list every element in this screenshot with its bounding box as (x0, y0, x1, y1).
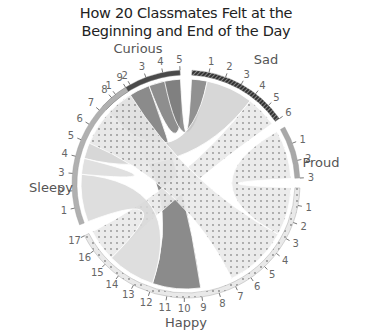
tick-mark (162, 68, 163, 72)
tick-label: 3 (308, 172, 314, 183)
tick-label: 4 (259, 80, 265, 91)
tick-mark (276, 253, 279, 255)
group-label-happy: Happy (165, 315, 207, 330)
tick-label: 4 (157, 56, 163, 67)
tick-label: 8 (101, 84, 107, 95)
tick-mark (251, 278, 253, 281)
tick-label: 6 (254, 281, 260, 292)
tick-mark (128, 81, 130, 84)
tick-mark (279, 116, 282, 118)
tick-mark (265, 267, 268, 270)
tick-mark (256, 91, 258, 94)
tick-label: 16 (78, 252, 91, 263)
tick-mark (113, 91, 115, 94)
tick-label: 11 (159, 302, 172, 313)
tick-mark (77, 138, 81, 140)
tick-mark (148, 292, 149, 296)
tick-label: 1 (300, 134, 306, 145)
tick-mark (123, 84, 125, 87)
tick-label: 7 (88, 97, 94, 108)
tick-mark (166, 296, 167, 300)
tick-label: 4 (282, 255, 288, 266)
tick-mark (286, 239, 290, 241)
ribbons-layer (81, 79, 291, 289)
tick-label: 12 (140, 297, 153, 308)
tick-mark (268, 103, 271, 106)
tick-label: 13 (122, 289, 135, 300)
tick-label: 14 (106, 279, 119, 290)
tick-label: 8 (219, 298, 225, 309)
tick-mark (293, 223, 297, 224)
tick-label: 5 (176, 54, 182, 65)
tick-mark (226, 73, 227, 77)
tick-mark (298, 159, 302, 160)
tick-mark (72, 155, 76, 156)
tick-mark (241, 81, 243, 84)
tick-label: 6 (285, 107, 291, 118)
tick-mark (81, 236, 85, 238)
group-label-proud: Proud (302, 155, 339, 170)
tick-label: 1 (306, 202, 312, 213)
tick-label: 2 (300, 221, 306, 232)
tick-label: 9 (117, 72, 123, 83)
tick-label: 17 (68, 235, 81, 246)
tick-mark (71, 208, 75, 209)
tick-label: 3 (139, 61, 145, 72)
group-label-sleepy: Sleepy (29, 180, 73, 195)
tick-label: 5 (273, 92, 279, 103)
tick-label: 6 (76, 113, 82, 124)
tick-mark (219, 293, 220, 297)
tick-label: 1 (208, 56, 214, 67)
tick-label: 4 (62, 148, 68, 159)
tick-mark (144, 74, 145, 78)
tick-label: 5 (269, 269, 275, 280)
tick-label: 1 (61, 205, 67, 216)
tick-mark (236, 287, 238, 291)
tick-mark (96, 107, 99, 110)
tick-mark (86, 122, 89, 124)
tick-label: 7 (237, 291, 243, 302)
tick-label: 2 (226, 61, 232, 72)
tick-label: 5 (68, 130, 74, 141)
tick-mark (292, 142, 296, 143)
tick-mark (132, 285, 134, 289)
tick-mark (209, 68, 210, 72)
tick-label: 10 (178, 303, 191, 314)
tick-mark (109, 95, 112, 98)
tick-label: 9 (200, 302, 206, 313)
group-label-sad: Sad (254, 52, 278, 67)
tick-label: 15 (91, 267, 104, 278)
tick-mark (298, 206, 302, 207)
tick-label: 3 (243, 69, 249, 80)
tick-mark (202, 297, 203, 301)
tick-label: 3 (293, 238, 299, 249)
chord-diagram: 1234512345612312345678910111213141516171… (0, 0, 372, 332)
tick-label: 3 (58, 167, 64, 178)
group-label-curious: Curious (113, 41, 162, 56)
